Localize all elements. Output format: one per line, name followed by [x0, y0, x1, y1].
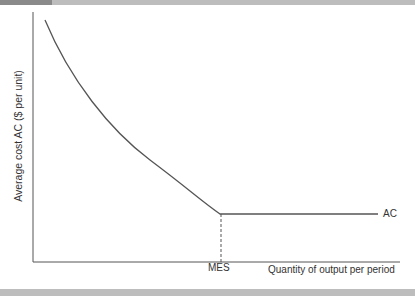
chart-canvas — [0, 0, 415, 296]
ac-curve — [45, 20, 378, 214]
ac-series-label: AC — [383, 208, 397, 219]
mes-tick-label: MES — [208, 262, 230, 273]
x-axis-label: Quantity of output per period — [268, 264, 395, 275]
footer-bar — [0, 289, 415, 296]
y-axis-label: Average cost AC ($ per unit) — [12, 66, 24, 206]
